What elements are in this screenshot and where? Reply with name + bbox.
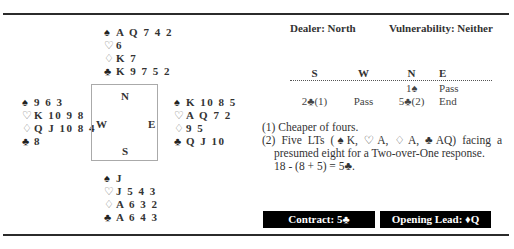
- compass-box: N W E S: [91, 84, 158, 161]
- note-2: (2) Five LTs (♠K, ♡A, ♢A, ♣AQ) facing a …: [262, 134, 502, 160]
- compass-south: S: [122, 145, 128, 157]
- diamond-icon: ♢: [104, 198, 116, 211]
- spade-icon: ♠: [104, 172, 116, 185]
- north-diamonds: K 7: [116, 52, 137, 64]
- compass-west: W: [96, 118, 107, 130]
- north-hand: ♠A Q 7 4 2 ♡6 ♢K 7 ♣K 9 7 5 2: [104, 26, 173, 78]
- auction-row: 1♠ Pass: [290, 82, 492, 95]
- auction-cell: End: [435, 95, 492, 108]
- spade-icon: ♠: [104, 26, 116, 39]
- auction-cell: 5♣(2): [388, 95, 435, 108]
- note-1: (1) Cheaper of fours.: [262, 121, 502, 134]
- dealer-label: Dealer: North: [290, 22, 356, 34]
- bottom-rule: [3, 234, 509, 236]
- diamond-icon: ♢: [104, 52, 116, 65]
- heart-icon: ♡: [22, 109, 34, 122]
- diamond-icon: ♢: [174, 122, 186, 135]
- east-diamonds: 9 5: [186, 122, 204, 134]
- west-spades: 9 6 3: [34, 96, 64, 108]
- auction-notes: (1) Cheaper of fours. (2) Five LTs (♠K, …: [262, 121, 502, 173]
- compass-north: N: [121, 90, 129, 102]
- auction-cell: [339, 82, 388, 95]
- club-icon: ♣: [104, 65, 116, 78]
- north-clubs: K 9 7 5 2: [116, 65, 171, 77]
- south-spades: J: [116, 172, 123, 184]
- east-spades: K 10 8 5: [186, 96, 237, 108]
- club-icon: ♣: [174, 135, 186, 148]
- west-hand: ♠9 6 3 ♡K 10 9 8 ♢Q J 10 8 4 ♣8: [22, 96, 96, 148]
- auction-header-south: S: [290, 67, 339, 80]
- auction-cell: Pass: [339, 95, 388, 108]
- north-hearts: 6: [116, 39, 123, 51]
- auction-row: 2♣(1) Pass 5♣(2) End: [290, 95, 492, 108]
- auction-cell: 2♣(1): [290, 95, 339, 108]
- south-hand: ♠J ♡J 5 4 3 ♢A 6 3 2 ♣A 6 4 3: [104, 172, 159, 224]
- vulnerability-label: Vulnerability: Neither: [389, 22, 493, 34]
- auction-header: S W N E: [290, 67, 492, 80]
- opening-lead-badge: Opening Lead: ♦Q: [380, 211, 491, 228]
- auction-cell: 1♠: [388, 82, 435, 95]
- compass-east: E: [148, 118, 155, 130]
- auction-table: S W N E 1♠ Pass 2♣(1) Pass 5♣(2) End: [290, 67, 492, 108]
- club-icon: ♣: [104, 211, 116, 224]
- contract-badge: Contract: 5♣: [263, 211, 375, 228]
- east-clubs: Q J 10: [186, 135, 226, 147]
- auction-divider: [290, 80, 492, 81]
- club-icon: ♣: [22, 135, 34, 148]
- spade-icon: ♠: [174, 96, 186, 109]
- west-diamonds: Q J 10 8 4: [34, 122, 96, 134]
- heart-icon: ♡: [174, 109, 186, 122]
- note-calculation: 18 - (8 + 5) = 5♣.: [262, 160, 502, 173]
- auction-cell: [290, 82, 339, 95]
- auction-header-west: W: [339, 67, 388, 80]
- spade-icon: ♠: [22, 96, 34, 109]
- north-spades: A Q 7 4 2: [116, 26, 173, 38]
- auction-cell: Pass: [435, 82, 492, 95]
- east-hearts: A Q 7 2: [186, 109, 232, 121]
- south-clubs: A 6 4 3: [116, 211, 159, 223]
- west-clubs: 8: [34, 135, 41, 147]
- top-rule: [3, 13, 509, 15]
- west-hearts: K 10 9 8: [34, 109, 85, 121]
- diamond-icon: ♢: [22, 122, 34, 135]
- east-hand: ♠K 10 8 5 ♡A Q 7 2 ♢9 5 ♣Q J 10: [174, 96, 237, 148]
- auction-header-north: N: [388, 67, 435, 80]
- heart-icon: ♡: [104, 185, 116, 198]
- south-diamonds: A 6 3 2: [116, 198, 159, 210]
- auction-header-east: E: [435, 67, 492, 80]
- heart-icon: ♡: [104, 39, 116, 52]
- south-hearts: J 5 4 3: [116, 185, 157, 197]
